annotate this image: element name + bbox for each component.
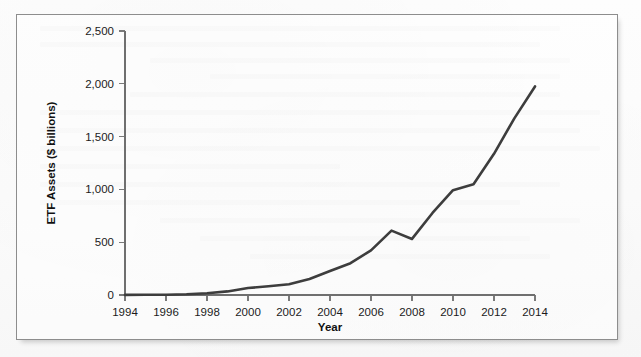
y-axis-ticks: 05001,0001,5002,0002,500 [85, 25, 125, 301]
y-axis-title: ETF Assets ($ billions) [45, 101, 57, 224]
x-tick-label: 2008 [399, 306, 425, 318]
data-line-etf-assets [125, 86, 535, 294]
x-tick-label: 2006 [358, 306, 384, 318]
x-tick-label: 2012 [481, 306, 507, 318]
x-tick-label: 2010 [440, 306, 466, 318]
y-tick-label: 0 [108, 289, 114, 301]
x-tick-label: 2014 [522, 306, 548, 318]
y-tick-label: 2,500 [85, 25, 114, 37]
x-axis-ticks: 1994199619982000200220042006200820102012… [112, 295, 548, 318]
chart-canvas: 05001,0001,5002,0002,500 199419961998200… [17, 15, 619, 341]
y-tick-label: 1,000 [85, 183, 114, 195]
y-tick-label: 500 [95, 236, 114, 248]
x-tick-label: 1994 [112, 306, 138, 318]
x-tick-label: 1996 [153, 306, 179, 318]
x-tick-label: 1998 [194, 306, 220, 318]
x-tick-label: 2000 [235, 306, 261, 318]
figure-frame: 05001,0001,5002,0002,500 199419961998200… [16, 14, 618, 340]
x-tick-label: 2002 [276, 306, 302, 318]
y-tick-label: 2,000 [85, 78, 114, 90]
x-tick-label: 2004 [317, 306, 343, 318]
line-chart: 05001,0001,5002,0002,500 199419961998200… [17, 15, 619, 341]
x-axis-title: Year [318, 321, 343, 333]
y-tick-label: 1,500 [85, 131, 114, 143]
